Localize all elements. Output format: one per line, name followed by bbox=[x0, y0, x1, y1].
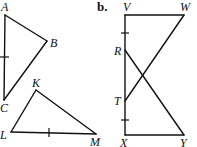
figure-vwxy: V W R T X Y bbox=[113, 0, 191, 147]
label-l: L bbox=[0, 128, 7, 142]
segment-km bbox=[36, 90, 96, 134]
segment-ab bbox=[5, 15, 47, 41]
label-w: W bbox=[180, 0, 191, 14]
geometry-diagram: A B C K L M b. V W R T X Y bbox=[0, 0, 197, 147]
label-c: C bbox=[0, 101, 9, 115]
triangle-klm: K L M bbox=[0, 76, 101, 147]
segment-wt bbox=[125, 15, 184, 101]
label-a: A bbox=[0, 0, 9, 14]
label-x: X bbox=[119, 136, 128, 147]
label-t: T bbox=[114, 94, 122, 108]
label-m: M bbox=[89, 135, 101, 147]
triangle-abc: A B C bbox=[0, 0, 58, 115]
label-b: B bbox=[50, 36, 58, 50]
segment-lm bbox=[11, 132, 96, 134]
segment-bc bbox=[4, 41, 47, 100]
label-y: Y bbox=[180, 136, 188, 147]
segment-ry bbox=[125, 50, 184, 135]
part-label-b: b. bbox=[97, 0, 107, 14]
label-k: K bbox=[31, 76, 41, 90]
segment-kl bbox=[11, 90, 36, 132]
label-v: V bbox=[123, 0, 132, 14]
label-r: R bbox=[113, 44, 122, 58]
